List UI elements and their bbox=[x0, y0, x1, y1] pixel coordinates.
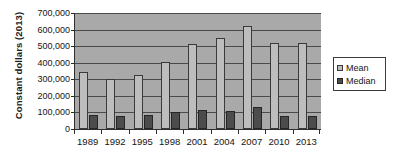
bar-group bbox=[212, 13, 239, 129]
bar-chart: Constant dollars (2013) 700,000600,00050… bbox=[0, 0, 394, 167]
x-axis-tick-label-1989: 1989 bbox=[77, 136, 98, 147]
x-axis-tick-label-1992: 1992 bbox=[104, 136, 125, 147]
legend-swatch-mean-icon bbox=[337, 65, 343, 71]
bar-mean-2001 bbox=[188, 44, 197, 129]
bars-layer bbox=[75, 13, 321, 129]
bar-mean-1998 bbox=[161, 62, 170, 129]
plot-area bbox=[74, 13, 321, 130]
bar-mean-1989 bbox=[79, 72, 88, 129]
y-axis-tick-label: 300,000 bbox=[18, 74, 70, 84]
bar-mean-1992 bbox=[106, 79, 115, 129]
bar-median-2007 bbox=[253, 107, 262, 129]
x-axis-tick-mark bbox=[238, 130, 239, 134]
x-axis-tick-label-1995: 1995 bbox=[132, 136, 153, 147]
y-axis-tick-label: 500,000 bbox=[18, 41, 70, 51]
bar-median-1995 bbox=[144, 115, 153, 129]
x-axis-tick-mark bbox=[293, 130, 294, 134]
bar-group bbox=[102, 13, 129, 129]
bar-median-2010 bbox=[280, 116, 289, 129]
x-axis-tick-mark bbox=[211, 130, 212, 134]
legend-item-median[interactable]: Median bbox=[337, 74, 383, 87]
bar-group bbox=[130, 13, 157, 129]
bar-median-2004 bbox=[226, 111, 235, 129]
y-axis-tick-label: 600,000 bbox=[18, 25, 70, 35]
bar-group bbox=[294, 13, 321, 129]
bar-mean-1995 bbox=[134, 75, 143, 129]
bar-median-1998 bbox=[171, 112, 180, 129]
y-axis-tick-labels: 700,000600,000500,000400,000300,000200,0… bbox=[18, 13, 70, 129]
bar-group bbox=[157, 13, 184, 129]
x-axis-tick-mark bbox=[183, 130, 184, 134]
y-axis-tick-label: 0 bbox=[18, 124, 70, 134]
x-axis-tick-mark bbox=[74, 130, 75, 134]
x-axis-tick-label-2010: 2010 bbox=[268, 136, 289, 147]
x-axis-tick-mark bbox=[101, 130, 102, 134]
bar-group bbox=[184, 13, 211, 129]
bar-mean-2010 bbox=[270, 43, 279, 129]
x-axis-tick-mark bbox=[319, 130, 320, 134]
bar-median-1992 bbox=[116, 116, 125, 129]
x-axis-tick-label-1998: 1998 bbox=[159, 136, 180, 147]
bar-median-2001 bbox=[198, 110, 207, 129]
bar-mean-2007 bbox=[243, 26, 252, 129]
x-axis-tick-mark bbox=[265, 130, 266, 134]
bar-group bbox=[239, 13, 266, 129]
x-axis-tick-label-2004: 2004 bbox=[214, 136, 235, 147]
bar-median-1989 bbox=[89, 115, 98, 129]
x-axis-tick-label-2001: 2001 bbox=[186, 136, 207, 147]
x-axis-tick-label-2013: 2013 bbox=[296, 136, 317, 147]
legend-item-mean[interactable]: Mean bbox=[337, 61, 383, 74]
x-axis-tick-mark bbox=[156, 130, 157, 134]
x-axis-tick-marks bbox=[74, 130, 320, 134]
x-axis-tick-labels: 198919921995199820012004200720102013 bbox=[74, 136, 320, 150]
bar-mean-2004 bbox=[216, 38, 225, 129]
chart-legend: MeanMedian bbox=[333, 57, 386, 91]
y-axis-tick-label: 100,000 bbox=[18, 107, 70, 117]
legend-label: Mean bbox=[346, 63, 369, 73]
y-axis-tick-label: 200,000 bbox=[18, 91, 70, 101]
bar-group bbox=[266, 13, 293, 129]
legend-label: Median bbox=[346, 76, 376, 86]
x-axis-tick-label-2007: 2007 bbox=[241, 136, 262, 147]
x-axis-tick-mark bbox=[129, 130, 130, 134]
bar-mean-2013 bbox=[298, 43, 307, 129]
bar-median-2013 bbox=[308, 116, 317, 129]
bar-group bbox=[75, 13, 102, 129]
legend-swatch-median-icon bbox=[337, 78, 343, 84]
y-axis-tick-label: 700,000 bbox=[18, 8, 70, 18]
y-axis-tick-label: 400,000 bbox=[18, 58, 70, 68]
